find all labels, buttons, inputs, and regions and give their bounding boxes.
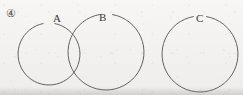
set-label-a: A	[53, 13, 61, 24]
circle-b	[68, 15, 144, 90]
venn-diagram-svg	[0, 0, 243, 95]
item-number: ④	[3, 5, 19, 21]
circle-c	[162, 17, 238, 92]
set-label-c: C	[196, 13, 203, 24]
circle-a	[18, 24, 80, 85]
set-label-b: B	[99, 12, 106, 23]
figure-canvas: ④ A B C	[0, 0, 243, 95]
